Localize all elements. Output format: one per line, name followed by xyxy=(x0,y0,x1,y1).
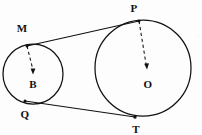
label-point-p: P xyxy=(131,3,138,14)
upper-tangent-line xyxy=(27,21,139,46)
label-point-m: M xyxy=(17,23,28,34)
point-marker-q xyxy=(24,100,27,103)
radius-mb-arrowhead xyxy=(31,69,36,75)
label-center-b: B xyxy=(29,79,37,90)
label-point-t: T xyxy=(132,124,140,135)
point-marker-p xyxy=(138,20,141,23)
point-marker-t xyxy=(133,115,136,118)
label-point-q: Q xyxy=(21,109,30,120)
geometry-canvas xyxy=(0,0,202,135)
point-marker-m xyxy=(26,45,29,48)
large-circle xyxy=(95,20,191,116)
label-center-o: O xyxy=(144,79,153,90)
radius-mb-dashed xyxy=(27,46,33,70)
geometry-figure: M B P O Q T xyxy=(0,0,202,135)
radius-po-arrowhead xyxy=(144,63,149,69)
radius-po-dashed xyxy=(139,21,146,65)
